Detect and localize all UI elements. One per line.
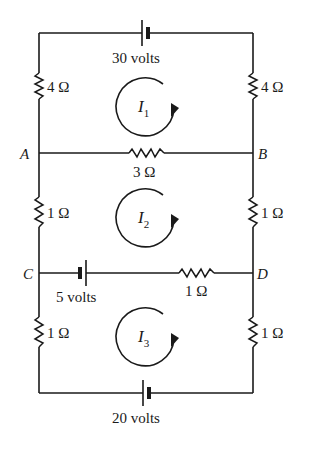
loop-current-i3: I3 <box>116 308 179 366</box>
resistor-cd-1ohm <box>179 269 214 277</box>
battery-20v-label: 20 volts <box>112 410 160 426</box>
loop-i1-subscript: 1 <box>144 107 150 119</box>
resistor-bottom-right <box>249 317 257 347</box>
svg-text:I2: I2 <box>137 208 149 230</box>
resistor-mid-left <box>35 197 43 227</box>
resistor-mid-right <box>249 197 257 227</box>
resistor-bottom-left-label: 1 Ω <box>47 325 69 341</box>
loop-i2-subscript: 2 <box>144 218 150 230</box>
resistor-top-left-label: 4 Ω <box>47 79 69 95</box>
resistor-bottom-right-label: 1 Ω <box>261 325 283 341</box>
resistor-mid-left-label: 1 Ω <box>47 205 69 221</box>
battery-5v <box>80 260 86 286</box>
loop-current-i1: I1 <box>116 78 179 136</box>
resistor-cd-label: 1 Ω <box>185 283 207 299</box>
loop-i3-subscript: 3 <box>144 337 150 349</box>
battery-20v <box>143 380 149 406</box>
battery-5v-label: 5 volts <box>56 289 97 305</box>
resistor-top-right <box>249 73 257 99</box>
loop-current-i2: I2 <box>116 189 179 247</box>
node-d-label: D <box>256 266 268 282</box>
battery-30v <box>142 20 148 46</box>
node-a-label: A <box>19 146 30 162</box>
circuit-diagram: 30 volts 4 Ω 1 Ω 1 Ω 4 Ω 1 Ω 1 Ω 3 Ω A B <box>0 0 318 451</box>
resistor-top-left <box>35 73 43 99</box>
resistor-top-right-label: 4 Ω <box>261 79 283 95</box>
resistor-bottom-left <box>35 317 43 347</box>
resistor-mid-right-label: 1 Ω <box>261 205 283 221</box>
node-c-label: C <box>23 266 34 282</box>
svg-text:I3: I3 <box>137 327 150 349</box>
resistor-ab-3ohm <box>129 149 164 157</box>
resistor-ab-label: 3 Ω <box>133 164 155 180</box>
battery-30v-label: 30 volts <box>112 50 160 66</box>
svg-text:I1: I1 <box>137 97 149 119</box>
node-b-label: B <box>258 146 267 162</box>
